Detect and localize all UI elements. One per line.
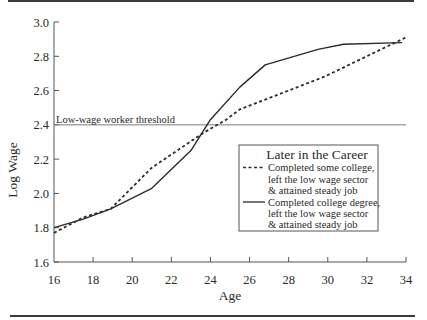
chart-figure: 1.61.82.02.22.42.62.83.0 161820222426283… — [0, 0, 427, 320]
legend: Later in the Career Completed some colle… — [239, 145, 380, 231]
x-tick-label: 32 — [361, 273, 374, 287]
x-tick-label: 24 — [204, 273, 217, 287]
legend-label-line: Completed college degree, — [268, 197, 380, 208]
y-tick-label: 3.0 — [33, 16, 49, 30]
legend-title: Later in the Career — [266, 147, 368, 162]
x-tick-label: 34 — [400, 273, 413, 287]
x-axis-title: Age — [219, 288, 242, 303]
x-tick-label: 30 — [322, 273, 335, 287]
legend-label-line: & attained steady job — [268, 219, 358, 230]
x-tick-label: 20 — [126, 273, 139, 287]
y-tick-label: 2.8 — [33, 50, 49, 64]
x-tick-label: 16 — [48, 273, 61, 287]
x-tick-label: 18 — [87, 273, 100, 287]
legend-label-line: left the low wage sector — [268, 174, 369, 185]
y-tick-label: 1.6 — [33, 256, 49, 270]
legend-label-line: & attained steady job — [268, 185, 358, 196]
line-chart: 1.61.82.02.22.42.62.83.0 161820222426283… — [0, 0, 427, 320]
x-tick-label: 26 — [243, 273, 256, 287]
y-tick-label: 2.6 — [33, 84, 49, 98]
y-tick-label: 1.8 — [33, 221, 49, 235]
y-tick-label: 2.2 — [33, 153, 49, 167]
x-tick-label: 22 — [165, 273, 178, 287]
y-tick-label: 2.4 — [33, 118, 49, 132]
legend-label-line: left the low wage sector — [268, 208, 369, 219]
y-tick-label: 2.0 — [33, 187, 49, 201]
y-axis-title: Log Wage — [5, 142, 20, 197]
legend-label-line: Completed some college, — [268, 162, 374, 173]
x-tick-label: 28 — [282, 273, 295, 287]
threshold-label: Low-wage worker threshold — [56, 114, 176, 125]
